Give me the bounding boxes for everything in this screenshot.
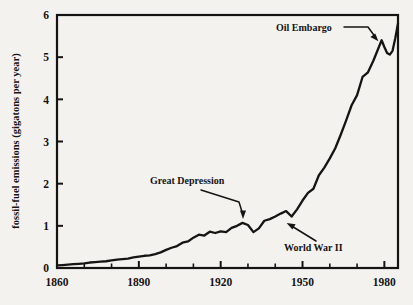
annotation-arrowhead-oil-embargo	[370, 34, 378, 42]
annotation-arrowhead-world-war-ii	[287, 223, 296, 230]
y-axis-label: fossil-fuel emissions (gigatons per year…	[10, 53, 22, 229]
x-tick-label-1890: 1890	[127, 276, 150, 288]
x-tick-label-1860: 1860	[46, 276, 69, 288]
x-tick-label-1950: 1950	[291, 276, 314, 288]
y-tick-label-2: 2	[43, 178, 49, 190]
data-series-group	[57, 23, 398, 265]
x-axis-ticks: 18601890192019501980	[46, 261, 397, 288]
y-tick-label-1: 1	[43, 220, 49, 232]
y-tick-label-6: 6	[43, 9, 49, 21]
annotation-label-great-depression: Great Depression	[150, 175, 225, 186]
annotation-arrowhead-great-depression	[240, 211, 246, 219]
x-tick-label-1980: 1980	[373, 276, 396, 288]
annotation-arrow-line-great-depression	[201, 190, 243, 215]
chart-figure: 0123456 18601890192019501980 fossil-fuel…	[0, 0, 413, 305]
annotation-oil-embargo: Oil Embargo	[276, 22, 378, 41]
annotation-arrow-line-world-war-ii	[290, 225, 316, 241]
annotation-world-war-ii: World War II	[284, 223, 343, 253]
y-tick-label-4: 4	[43, 94, 49, 106]
y-axis-ticks: 0123456	[43, 9, 63, 274]
y-tick-label-3: 3	[43, 136, 49, 148]
y-tick-label-0: 0	[43, 262, 49, 274]
annotation-label-world-war-ii: World War II	[284, 242, 343, 253]
annotation-great-depression: Great Depression	[150, 175, 246, 219]
y-tick-label-5: 5	[43, 51, 49, 63]
emissions-line-chart: 0123456 18601890192019501980 fossil-fuel…	[0, 0, 413, 305]
annotation-arrow-line-oil-embargo	[344, 27, 376, 38]
emissions-line	[57, 23, 398, 265]
x-tick-label-1920: 1920	[209, 276, 232, 288]
annotation-label-oil-embargo: Oil Embargo	[276, 22, 332, 33]
